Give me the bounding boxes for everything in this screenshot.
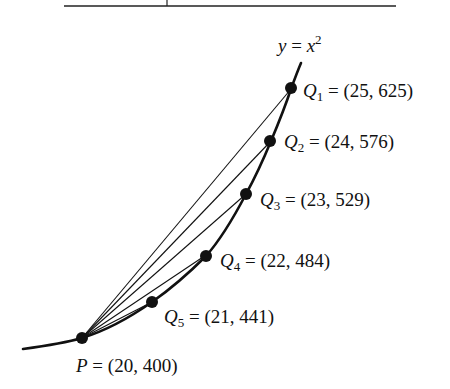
label-q1: Q1 = (25, 625)	[303, 81, 413, 100]
label-q5: Q5 = (21, 441)	[164, 307, 274, 326]
label-p-coords: = (20, 400)	[88, 355, 178, 376]
secant-lines-diagram	[0, 0, 450, 389]
label-q4: Q4 = (22, 484)	[220, 251, 330, 270]
point-q2	[264, 135, 276, 147]
label-q2-name: Q	[284, 131, 298, 152]
point-q5	[146, 296, 158, 308]
label-q5-coords: = (21, 441)	[184, 306, 274, 327]
curve-label: y = x2	[278, 36, 322, 55]
label-q2-coords: = (24, 576)	[304, 131, 394, 152]
label-p-name: P	[76, 355, 88, 376]
point-q1	[285, 82, 297, 94]
label-q5-name: Q	[164, 306, 178, 327]
secant-line-q1	[82, 89, 291, 338]
point-p	[76, 332, 88, 344]
secant-lines	[82, 89, 291, 338]
label-q4-name: Q	[220, 250, 234, 271]
label-p: P = (20, 400)	[76, 356, 177, 375]
label-q3-name: Q	[260, 189, 274, 210]
label-q2: Q2 = (24, 576)	[284, 132, 394, 151]
label-q1-name: Q	[303, 80, 317, 101]
point-q3	[240, 188, 252, 200]
label-q1-coords: = (25, 625)	[323, 80, 413, 101]
label-q4-coords: = (22, 484)	[240, 250, 330, 271]
curve-label-x: x	[307, 35, 315, 56]
label-q3: Q3 = (23, 529)	[260, 190, 370, 209]
point-q4	[200, 250, 212, 262]
label-q3-coords: = (23, 529)	[280, 189, 370, 210]
curve-label-exp: 2	[315, 32, 322, 47]
curve-label-eq: =	[286, 35, 306, 56]
